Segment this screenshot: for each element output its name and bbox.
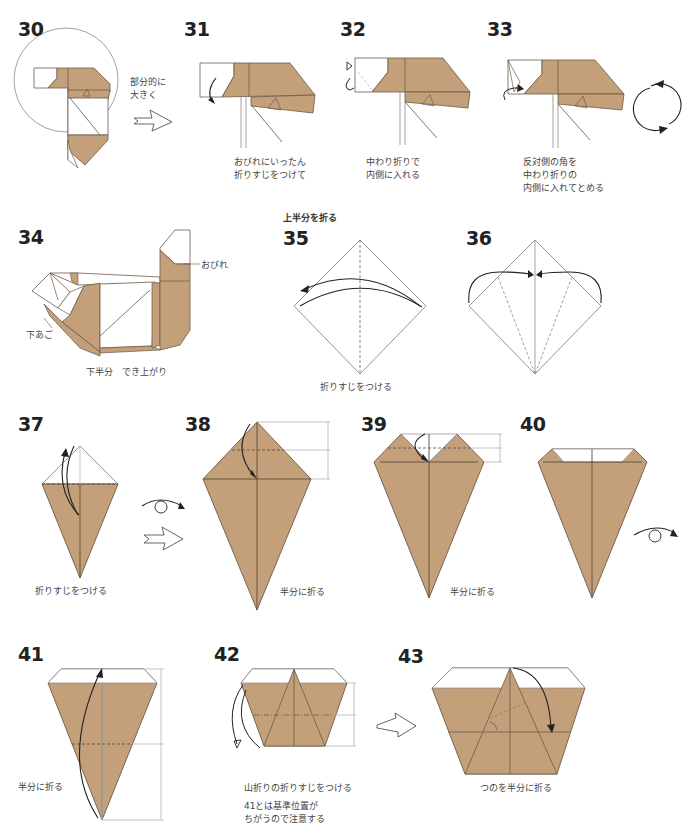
- label-lower-jaw: 下あご: [26, 329, 53, 342]
- flip-over-icon: [0, 0, 688, 828]
- caption-step-37: 折りすじをつける: [35, 585, 107, 598]
- step-number-36: 36: [466, 227, 491, 249]
- step-number-41: 41: [18, 643, 43, 665]
- step-number-42: 42: [214, 643, 239, 665]
- hollow-right-arrow-icon: [0, 0, 688, 828]
- flip-over-icon: [0, 0, 688, 828]
- caption-step-32: 中わり折りで 内側に入れる: [366, 156, 420, 182]
- step-number-38: 38: [185, 413, 210, 435]
- diagram-step-35: [0, 0, 688, 828]
- caption-step-38: 半分に折る: [280, 586, 325, 599]
- diagram-step-37: [0, 0, 688, 828]
- section-title-upper-half: 上半分を折る: [283, 211, 337, 224]
- step-number-32: 32: [340, 18, 365, 40]
- step-number-37: 37: [18, 413, 43, 435]
- step-number-34: 34: [18, 226, 43, 248]
- diagram-step-33: [0, 0, 688, 828]
- caption-step-43: つのを半分に折る: [480, 782, 552, 795]
- diagram-step-36: [0, 0, 688, 828]
- caption-step-34: 下半分 でき上がり: [86, 366, 167, 379]
- diagram-step-42: [0, 0, 688, 828]
- diagram-step-43: [0, 0, 688, 828]
- diagram-step-38: [0, 0, 688, 828]
- caption-step-42: 山折りの折りすじをつける: [244, 782, 352, 795]
- diagram-step-31: [0, 0, 688, 828]
- caption-step-30: 部分的に 大きく: [130, 76, 166, 102]
- caption-step-41: 半分に折る: [18, 781, 63, 794]
- step-number-33: 33: [487, 18, 512, 40]
- hollow-right-arrow-icon: [0, 0, 688, 828]
- caption-step-31: おびれにいったん 折りすじをつけて: [234, 156, 306, 182]
- note-step-42: 41とは基準位置が ちがうので注意する: [244, 800, 325, 826]
- diagram-step-40: [0, 0, 688, 828]
- step-number-30: 30: [18, 18, 43, 40]
- hollow-right-arrow-icon: [0, 0, 688, 828]
- label-tail: おびれ: [201, 259, 228, 272]
- caption-step-39: 半分に折る: [450, 586, 495, 599]
- diagram-step-30: [0, 0, 688, 828]
- caption-step-33: 反対側の角を 中わり折りの 内側に入れてとめる: [523, 156, 604, 195]
- step-number-43: 43: [398, 645, 423, 667]
- diagram-step-39: [0, 0, 688, 828]
- step-number-40: 40: [520, 413, 545, 435]
- caption-step-35: 折りすじをつける: [320, 381, 392, 394]
- diagram-step-41: [0, 0, 688, 828]
- step-number-31: 31: [184, 18, 209, 40]
- diagram-step-32: [0, 0, 688, 828]
- rotate-icon: [0, 0, 688, 828]
- diagram-step-34: [0, 0, 688, 828]
- step-number-35: 35: [283, 227, 308, 249]
- step-number-39: 39: [361, 413, 386, 435]
